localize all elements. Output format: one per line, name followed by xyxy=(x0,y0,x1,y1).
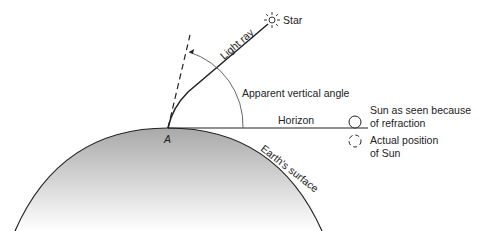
light-ray-label: Light ray xyxy=(217,26,256,62)
actual-position-label-1: Actual position xyxy=(370,134,438,146)
apparent-sun-icon xyxy=(349,116,361,128)
star-label: Star xyxy=(283,14,303,26)
light-ray xyxy=(168,24,268,128)
point-a-label: A xyxy=(163,133,171,145)
refraction-diagram: Star Light ray Apparent vertical angle H… xyxy=(0,0,483,231)
sun-seen-label-1: Sun as seen because xyxy=(370,104,471,116)
apparent-angle-label: Apparent vertical angle xyxy=(242,87,350,99)
actual-position-label-2: of Sun xyxy=(370,147,401,159)
horizon-label: Horizon xyxy=(278,114,314,126)
actual-sun-icon xyxy=(349,135,361,147)
vertical-dashed-line xyxy=(168,35,190,128)
star-icon xyxy=(264,12,280,28)
angle-arc xyxy=(189,52,243,128)
sun-seen-label-2: of refraction xyxy=(370,117,426,129)
